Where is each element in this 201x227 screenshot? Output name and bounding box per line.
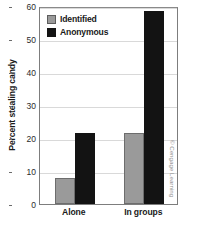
y-axis-tick-mark	[9, 106, 12, 107]
bar-anonymous-alone	[75, 133, 95, 204]
bar-chart-figure: Percent stealing candy 0102030405060 Ide…	[0, 0, 201, 227]
y-axis-tick-label: 20	[14, 135, 36, 144]
y-axis-tick-label: 40	[14, 69, 36, 78]
legend-item-identified: Identified	[47, 13, 108, 25]
bar-identified-in-groups	[124, 133, 144, 204]
copyright-credit: © Cengage Learning	[169, 129, 176, 209]
legend-label-identified: Identified	[60, 14, 97, 24]
y-axis-tick-labels: 0102030405060	[12, 0, 36, 227]
y-axis-tick-mark	[9, 139, 12, 140]
y-axis-tick-mark	[9, 172, 12, 173]
y-axis-tick-label: 60	[14, 3, 36, 12]
x-axis-tick-label: Alone	[39, 207, 109, 217]
y-axis-tick-mark	[9, 205, 12, 206]
x-axis-tick-label: In groups	[109, 207, 179, 217]
legend-item-anonymous: Anonymous	[47, 26, 108, 38]
y-axis-tick-mark	[9, 40, 12, 41]
plot-area: Identified Anonymous	[39, 7, 178, 205]
y-axis-tick-label: 30	[14, 102, 36, 111]
black-square-swatch	[47, 28, 56, 37]
bar-anonymous-in-groups	[144, 11, 164, 204]
y-axis-tick-label: 10	[14, 168, 36, 177]
y-axis-tick-mark	[9, 73, 12, 74]
chart-legend: Identified Anonymous	[44, 11, 112, 41]
y-axis-tick-label: 50	[14, 36, 36, 45]
legend-label-anonymous: Anonymous	[60, 27, 108, 37]
y-axis-tick-mark	[9, 7, 12, 8]
y-axis-tick-label: 0	[14, 201, 36, 210]
bar-identified-alone	[55, 178, 75, 204]
x-axis-tick-labels: AloneIn groups	[39, 207, 178, 221]
gray-square-swatch	[47, 15, 56, 24]
